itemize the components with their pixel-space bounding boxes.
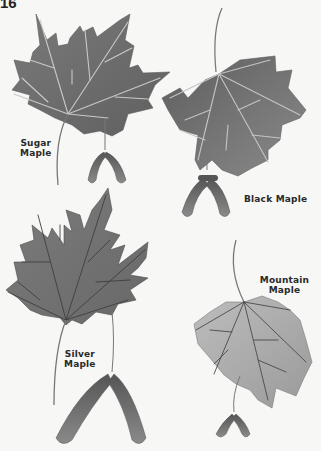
silver-maple-leaf: [6, 188, 148, 405]
silver-maple-label: Silver Maple: [64, 349, 96, 369]
silver-maple-seed: [56, 312, 146, 444]
sugar-maple-label-line2: Maple: [20, 148, 52, 158]
mountain-maple-seed: [216, 414, 250, 437]
mountain-maple-leaf: [194, 240, 312, 412]
silver-maple-label-line2: Maple: [64, 359, 96, 369]
silver-maple-label-line1: Silver: [64, 349, 96, 359]
sugar-maple-label-line1: Sugar: [20, 138, 52, 148]
sugar-maple-label: Sugar Maple: [20, 138, 52, 158]
sugar-maple-leaf: [12, 14, 170, 185]
mountain-maple-label: Mountain Maple: [248, 275, 321, 295]
black-maple-label: Black Maple: [244, 194, 307, 204]
black-maple-seed: [182, 175, 230, 217]
black-maple-leaf: [162, 8, 306, 176]
maple-leaves-illustration: [0, 0, 321, 451]
illustration-page: 16: [0, 0, 321, 451]
